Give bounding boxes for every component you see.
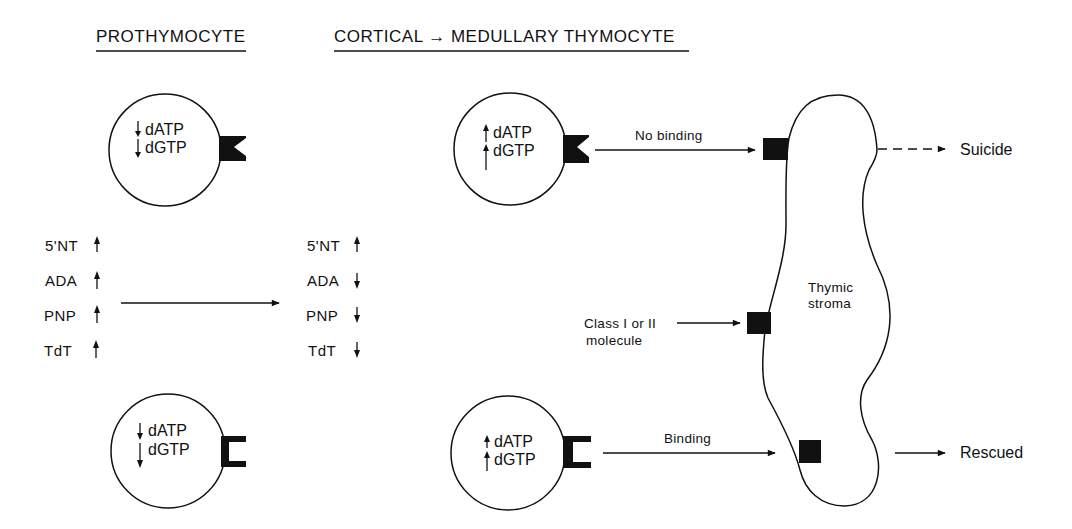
cell-label-dgtp: dGTP	[493, 143, 535, 159]
arrow-up-icon	[94, 236, 100, 252]
enzyme-label-pnp: PNP	[306, 308, 338, 323]
class-molecule-label-line1: Class I or II	[584, 317, 656, 331]
arrow-down-icon	[354, 273, 360, 289]
enzyme-label-ada: ADA	[307, 273, 339, 288]
cell-label-datp: dATP	[145, 122, 184, 138]
enzyme-label-pnp: PNP	[44, 308, 76, 323]
cell-label-dgtp: dGTP	[148, 442, 190, 458]
cell-label-dgtp: dGTP	[145, 140, 187, 156]
mhc-block-bottom	[799, 440, 821, 463]
arrow-down-icon	[354, 307, 360, 323]
cell-label-datp: dATP	[494, 434, 533, 450]
heading-prothymocyte: PROTHYMOCYTE	[96, 28, 246, 45]
arrow-up-icon	[94, 271, 100, 289]
mhc-block-middle	[747, 312, 771, 334]
arrow-up-icon	[354, 236, 360, 252]
cell-label-dgtp: dGTP	[494, 452, 536, 468]
enzyme-before-arrows	[93, 236, 100, 358]
stroma-label-line1: Thymic	[808, 281, 853, 295]
cell-label-datp: dATP	[493, 125, 532, 141]
bracket-receptor-icon	[221, 436, 246, 467]
stroma-label-line2: stroma	[808, 297, 851, 311]
heading-cortical-medullary-thymocyte: CORTICAL → MEDULLARY THYMOCYTE	[334, 28, 675, 45]
arrow-up-icon	[94, 305, 100, 323]
enzyme-label-5nt: 5'NT	[307, 238, 340, 253]
enzyme-label-ada: ADA	[45, 273, 77, 288]
binding-label: Binding	[664, 432, 711, 446]
arrow-down-icon	[354, 342, 360, 358]
enzyme-label-5nt: 5'NT	[45, 238, 78, 253]
arrow-up-icon	[93, 340, 99, 358]
notched-receptor-icon	[563, 135, 589, 163]
enzyme-after-arrows	[354, 236, 360, 358]
notched-receptor-icon	[219, 136, 246, 161]
outcome-suicide: Suicide	[960, 142, 1012, 158]
enzyme-label-tdt: TdT	[44, 343, 72, 358]
class-molecule-label-line2: molecule	[586, 334, 642, 348]
outcome-rescued: Rescued	[960, 445, 1023, 461]
mhc-block-top	[763, 138, 788, 160]
cell-label-datp: dATP	[148, 423, 187, 439]
no-binding-label: No binding	[635, 129, 703, 143]
enzyme-label-tdt: TdT	[308, 343, 336, 358]
bracket-receptor-icon	[563, 436, 591, 468]
